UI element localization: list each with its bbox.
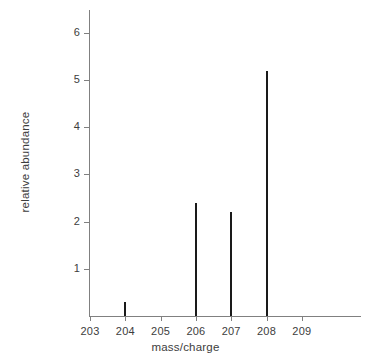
y-axis-tick-label: 5 (62, 74, 80, 85)
spectrum-peak (124, 302, 126, 316)
x-axis-tick-label-text: 205 (141, 325, 181, 338)
y-axis-tick-label-text: 5 (62, 74, 80, 85)
spectrum-peak (266, 71, 268, 316)
x-axis-tick-mark (302, 316, 303, 321)
x-axis-tick-mark (267, 316, 268, 321)
y-axis-tick-label: 3 (62, 168, 80, 179)
x-axis-title: mass/charge (0, 341, 371, 353)
x-axis-tick-label-text: 209 (282, 325, 322, 338)
x-axis-tick-mark (125, 316, 126, 321)
y-axis-tick-label: 4 (62, 121, 80, 132)
y-axis-tick-label-text: 3 (62, 168, 80, 179)
y-axis-title-container: relative abundance (18, 82, 32, 242)
y-axis-tick-mark (84, 80, 89, 81)
x-axis-tick-mark (90, 316, 91, 321)
y-axis-tick-mark (84, 127, 89, 128)
x-axis-tick-label: 205 (141, 325, 181, 338)
x-axis-tick-label-text: 208 (247, 325, 287, 338)
y-axis-tick-label-text: 4 (62, 121, 80, 132)
y-axis-tick-mark (84, 269, 89, 270)
y-axis-title: relative abundance (18, 82, 32, 242)
y-axis-tick-label-text: 2 (62, 216, 80, 227)
x-axis-tick-label: 208 (247, 325, 287, 338)
spectrum-peak (230, 212, 232, 316)
x-axis-tick-label: 206 (176, 325, 216, 338)
y-axis-line (89, 10, 90, 317)
x-axis-tick-mark (231, 316, 232, 321)
y-axis-tick-label: 2 (62, 216, 80, 227)
y-axis-tick-mark (84, 33, 89, 34)
x-axis-tick-label: 207 (211, 325, 251, 338)
mass-spectrum-figure: 123456 203204205206207208209 relative ab… (0, 0, 371, 363)
y-axis-tick-mark (84, 222, 89, 223)
plot-area: 123456 203204205206207208209 relative ab… (0, 0, 371, 363)
x-axis-tick-label: 204 (105, 325, 145, 338)
y-axis-tick-label-text: 6 (62, 27, 80, 38)
x-axis-tick-label-text: 206 (176, 325, 216, 338)
y-axis-tick-label: 1 (62, 263, 80, 274)
y-axis-tick-label-text: 1 (62, 263, 80, 274)
x-axis-tick-label-text: 203 (70, 325, 110, 338)
x-axis-line (89, 316, 361, 317)
x-axis-tick-label: 209 (282, 325, 322, 338)
y-axis-tick-label: 6 (62, 27, 80, 38)
x-axis-tick-label-text: 207 (211, 325, 251, 338)
x-axis-tick-mark (196, 316, 197, 321)
x-axis-tick-label: 203 (70, 325, 110, 338)
x-axis-tick-label-text: 204 (105, 325, 145, 338)
x-axis-tick-mark (161, 316, 162, 321)
spectrum-peak (195, 203, 197, 316)
y-axis-tick-mark (84, 174, 89, 175)
